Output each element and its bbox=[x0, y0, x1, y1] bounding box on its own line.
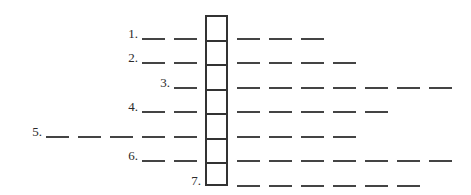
letter-blank[interactable] bbox=[429, 160, 452, 162]
letter-blank[interactable] bbox=[174, 38, 197, 40]
row-number: 5. bbox=[12, 125, 42, 138]
letter-blank[interactable] bbox=[333, 185, 356, 187]
cell-divider bbox=[207, 138, 226, 140]
letter-blank[interactable] bbox=[174, 87, 197, 89]
cell-divider bbox=[207, 89, 226, 91]
row-number: 2. bbox=[108, 51, 138, 64]
letter-blank[interactable] bbox=[333, 62, 356, 64]
letter-blank[interactable] bbox=[142, 160, 165, 162]
letter-blank[interactable] bbox=[174, 160, 197, 162]
letter-blank[interactable] bbox=[301, 87, 324, 89]
row-number: 4. bbox=[108, 100, 138, 113]
row-number: 3. bbox=[140, 76, 170, 89]
letter-blank[interactable] bbox=[269, 38, 292, 40]
cell-divider bbox=[207, 40, 226, 42]
letter-blank[interactable] bbox=[269, 160, 292, 162]
letter-blank[interactable] bbox=[397, 87, 420, 89]
highlighted-column bbox=[205, 15, 228, 186]
letter-blank[interactable] bbox=[333, 136, 356, 138]
letter-blank[interactable] bbox=[110, 136, 133, 138]
letter-blank[interactable] bbox=[333, 87, 356, 89]
letter-blank[interactable] bbox=[269, 185, 292, 187]
letter-blank[interactable] bbox=[46, 136, 69, 138]
letter-blank[interactable] bbox=[237, 87, 260, 89]
letter-blank[interactable] bbox=[174, 111, 197, 113]
letter-blank[interactable] bbox=[397, 185, 420, 187]
cell-divider bbox=[207, 64, 226, 66]
cell-divider bbox=[207, 113, 226, 115]
letter-blank[interactable] bbox=[174, 136, 197, 138]
letter-blank[interactable] bbox=[269, 62, 292, 64]
letter-blank[interactable] bbox=[301, 62, 324, 64]
letter-blank[interactable] bbox=[301, 38, 324, 40]
letter-blank[interactable] bbox=[237, 111, 260, 113]
letter-blank[interactable] bbox=[237, 136, 260, 138]
letter-blank[interactable] bbox=[365, 160, 388, 162]
letter-blank[interactable] bbox=[237, 38, 260, 40]
letter-blank[interactable] bbox=[333, 160, 356, 162]
row-number: 1. bbox=[108, 27, 138, 40]
letter-blank[interactable] bbox=[142, 62, 165, 64]
letter-blank[interactable] bbox=[301, 111, 324, 113]
letter-blank[interactable] bbox=[301, 136, 324, 138]
letter-blank[interactable] bbox=[301, 160, 324, 162]
letter-blank[interactable] bbox=[269, 111, 292, 113]
letter-blank[interactable] bbox=[237, 62, 260, 64]
letter-blank[interactable] bbox=[269, 87, 292, 89]
letter-blank[interactable] bbox=[174, 62, 197, 64]
letter-blank[interactable] bbox=[237, 185, 260, 187]
row-number: 6. bbox=[108, 149, 138, 162]
letter-blank[interactable] bbox=[301, 185, 324, 187]
letter-blank[interactable] bbox=[269, 136, 292, 138]
letter-blank[interactable] bbox=[397, 160, 420, 162]
letter-blank[interactable] bbox=[333, 111, 356, 113]
letter-blank[interactable] bbox=[142, 136, 165, 138]
letter-blank[interactable] bbox=[237, 160, 260, 162]
letter-blank[interactable] bbox=[142, 38, 165, 40]
letter-blank[interactable] bbox=[365, 111, 388, 113]
cell-divider bbox=[207, 162, 226, 164]
letter-blank[interactable] bbox=[78, 136, 101, 138]
letter-blank[interactable] bbox=[365, 87, 388, 89]
letter-blank[interactable] bbox=[429, 87, 452, 89]
letter-blank[interactable] bbox=[142, 111, 165, 113]
letter-blank[interactable] bbox=[365, 185, 388, 187]
row-number: 7. bbox=[171, 174, 201, 187]
